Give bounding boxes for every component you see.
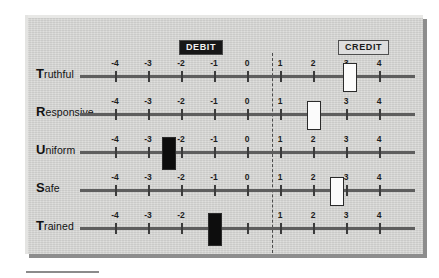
axis-tick-label: 2 xyxy=(305,58,321,68)
axis-tick-label: 1 xyxy=(272,210,288,220)
axis-tick xyxy=(148,185,150,196)
axis-tick-label: -2 xyxy=(173,172,189,182)
axis-tick xyxy=(148,71,150,82)
scale-row-safe: Safe-4-3-2-101234 xyxy=(25,167,423,205)
axis-tick xyxy=(214,147,216,158)
axis-tick xyxy=(313,223,315,234)
axis-tick xyxy=(280,109,282,120)
slider-marker-safe[interactable] xyxy=(330,177,344,206)
axis-tick xyxy=(313,71,315,82)
axis-tick-label: 4 xyxy=(371,134,387,144)
axis-tick xyxy=(115,109,117,120)
axis-tick-label: -4 xyxy=(107,172,123,182)
axis-tick xyxy=(280,223,282,234)
row-label-initial: T xyxy=(36,218,44,233)
row-label-remainder: ruthful xyxy=(44,68,74,80)
axis-tick-label: 1 xyxy=(272,96,288,106)
axis-tick xyxy=(379,109,381,120)
axis-tick-label: -1 xyxy=(206,96,222,106)
row-label-initial: U xyxy=(36,142,46,157)
scale-row-truthful: Truthful-4-3-2-101234 xyxy=(25,53,423,91)
row-label-trained: Trained xyxy=(36,218,74,233)
axis-tick-label: 0 xyxy=(239,58,255,68)
axis-tick xyxy=(148,109,150,120)
axis-tick xyxy=(181,223,183,234)
axis-tick-label: 0 xyxy=(239,134,255,144)
axis-tick xyxy=(115,223,117,234)
axis-tick-label: -3 xyxy=(140,96,156,106)
row-label-remainder: rained xyxy=(44,220,74,232)
scale-row-uniform: Uniform-4-3-2-101234 xyxy=(25,129,423,167)
row-label-remainder: niform xyxy=(46,144,76,156)
scale-row-responsive: Responsive-4-3-2-10134 xyxy=(25,91,423,129)
slider-marker-truthful[interactable] xyxy=(343,63,357,92)
axis-tick xyxy=(280,185,282,196)
axis-tick xyxy=(379,185,381,196)
axis-tick xyxy=(247,223,249,234)
axis-tick xyxy=(148,223,150,234)
axis-tick xyxy=(280,147,282,158)
trust-scale-panel: DEBIT CREDIT Truthful-4-3-2-101234Respon… xyxy=(25,15,423,254)
axis-tick-label: 2 xyxy=(305,210,321,220)
axis-tick-label: -2 xyxy=(173,210,189,220)
axis-tick xyxy=(181,71,183,82)
axis-tick-label: 0 xyxy=(239,96,255,106)
axis-tick-label: 3 xyxy=(338,96,354,106)
axis-tick xyxy=(148,147,150,158)
axis-tick xyxy=(379,147,381,158)
axis-tick-label: 3 xyxy=(338,210,354,220)
axis-tick-label: 4 xyxy=(371,210,387,220)
axis-tick-label: -4 xyxy=(107,96,123,106)
row-label-initial: R xyxy=(36,104,46,119)
axis-tick xyxy=(346,185,348,196)
row-label-initial: T xyxy=(36,66,44,81)
axis-tick-label: 2 xyxy=(305,172,321,182)
axis-tick-label: -2 xyxy=(173,96,189,106)
axis-tick-label: 1 xyxy=(272,58,288,68)
axis-tick-label: 1 xyxy=(272,134,288,144)
row-label-initial: S xyxy=(36,180,45,195)
slider-marker-trained[interactable] xyxy=(208,213,222,246)
axis-tick xyxy=(313,185,315,196)
caption-rule xyxy=(26,271,99,273)
axis-tick-label: 4 xyxy=(371,96,387,106)
axis-tick-label: -3 xyxy=(140,58,156,68)
axis-tick xyxy=(247,109,249,120)
axis-tick-label: 4 xyxy=(371,172,387,182)
panel-top-highlight xyxy=(25,15,423,18)
axis-tick-label: -3 xyxy=(140,134,156,144)
axis-tick-label: -1 xyxy=(206,58,222,68)
axis-tick xyxy=(214,185,216,196)
axis-tick xyxy=(115,147,117,158)
axis-tick-label: -4 xyxy=(107,58,123,68)
row-label-safe: Safe xyxy=(36,180,60,195)
axis-tick xyxy=(346,147,348,158)
slider-marker-responsive[interactable] xyxy=(307,101,321,130)
axis-tick xyxy=(280,71,282,82)
axis-tick xyxy=(247,147,249,158)
axis-tick-label: -2 xyxy=(173,58,189,68)
axis-tick xyxy=(247,185,249,196)
axis-tick xyxy=(115,185,117,196)
axis-tick xyxy=(181,185,183,196)
axis-tick-label: 3 xyxy=(338,134,354,144)
axis-tick xyxy=(346,223,348,234)
axis-tick xyxy=(379,223,381,234)
axis-tick-label: 1 xyxy=(272,172,288,182)
axis-tick-label: -4 xyxy=(107,134,123,144)
row-label-truthful: Truthful xyxy=(36,66,74,81)
axis-tick-label: -4 xyxy=(107,210,123,220)
row-label-uniform: Uniform xyxy=(36,142,75,157)
axis-tick xyxy=(214,109,216,120)
axis-tick xyxy=(181,147,183,158)
axis-tick-label: -1 xyxy=(206,134,222,144)
axis-tick xyxy=(379,71,381,82)
axis-tick-label: 0 xyxy=(239,172,255,182)
scale-row-trained: Trained-4-3-21234 xyxy=(25,205,423,243)
slider-marker-uniform[interactable] xyxy=(162,137,176,170)
axis-tick-label: -3 xyxy=(140,210,156,220)
row-label-responsive: Responsive xyxy=(36,104,94,119)
axis-tick xyxy=(214,71,216,82)
axis-tick xyxy=(247,71,249,82)
row-label-remainder: afe xyxy=(45,182,60,194)
